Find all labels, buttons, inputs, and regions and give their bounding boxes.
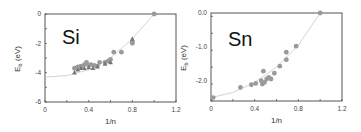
y-tick-label: 0 (37, 10, 41, 17)
x-tick-label: 0.8 (294, 105, 303, 112)
data-point (111, 50, 116, 55)
x-tick-label: 0 (43, 106, 47, 113)
data-point (130, 41, 135, 46)
data-point (318, 11, 323, 16)
y-tick-label: -4 (35, 69, 41, 76)
plot-frame (211, 13, 342, 101)
x-axis-label: 1/n (271, 116, 282, 125)
data-point (284, 57, 289, 62)
data-point (152, 12, 157, 17)
x-axis-label: 1/n (105, 117, 116, 126)
data-point (253, 81, 258, 86)
x-tick-label: 0.4 (84, 106, 93, 113)
panel-si: 00.40.81.20-2-4-61/nEb (eV)Si (13, 10, 181, 126)
y-axis-label: Eb (eV) (179, 45, 189, 71)
data-point (284, 50, 289, 55)
panel-sn: 00.40.81.20.0-1.0-2.01/nEb (eV)Sn (179, 9, 347, 125)
x-tick-label: 0.8 (128, 106, 137, 113)
data-point (272, 71, 277, 76)
data-point (119, 50, 124, 55)
x-tick-label: 1.2 (171, 106, 180, 113)
chart-canvas: 00.40.81.20-2-4-61/nEb (eV)Si00.40.81.20… (0, 0, 361, 132)
data-point (294, 44, 299, 49)
data-point (211, 95, 216, 100)
y-axis-label: Eb (eV) (13, 46, 23, 72)
panel-title: Si (62, 26, 80, 48)
y-tick-label: -6 (35, 98, 41, 105)
x-tick-label: 1.2 (337, 105, 346, 112)
y-tick-label: -2 (35, 40, 41, 47)
figure: 00.40.81.20-2-4-61/nEb (eV)Si00.40.81.20… (0, 0, 361, 132)
fit-curve (211, 13, 320, 98)
panel-title: Sn (228, 28, 252, 50)
data-point (269, 77, 274, 82)
y-tick-label: -1.0 (196, 43, 208, 50)
y-tick-label: 0.0 (198, 9, 207, 16)
data-point (277, 64, 282, 69)
data-point (238, 85, 243, 90)
data-point (261, 69, 266, 74)
x-tick-label: 0.4 (250, 105, 259, 112)
data-point (97, 60, 102, 65)
data-point (249, 82, 254, 87)
x-tick-label: 0 (209, 105, 213, 112)
y-tick-label: -2.0 (196, 77, 208, 84)
